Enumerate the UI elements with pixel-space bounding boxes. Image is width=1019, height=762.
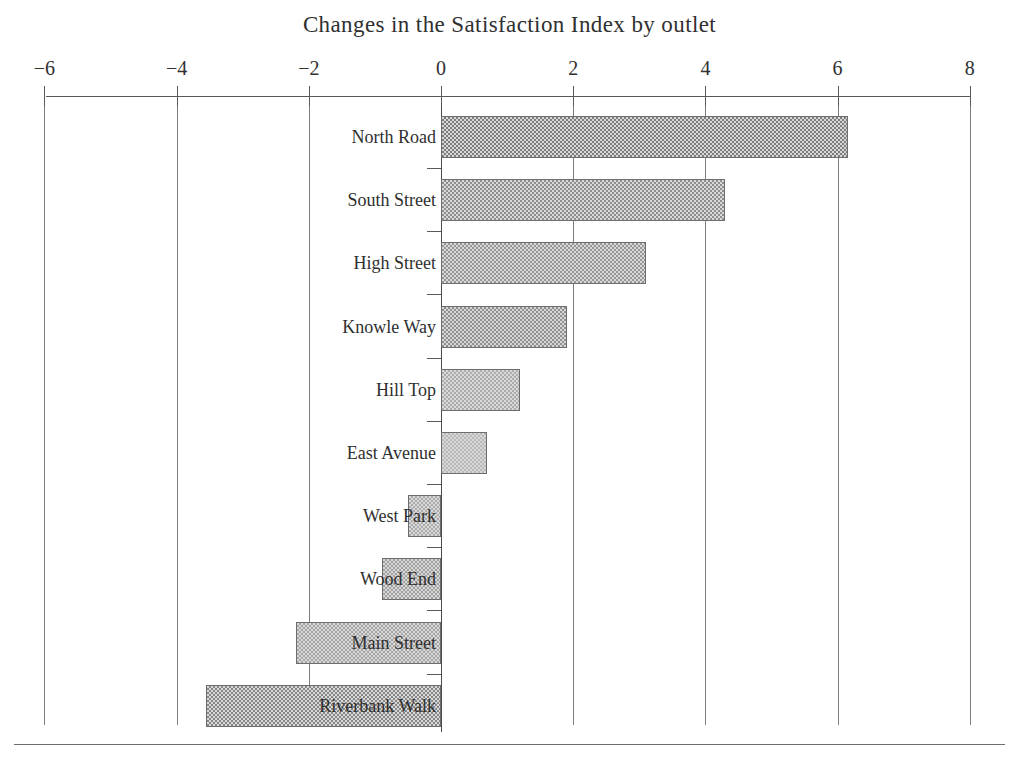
category-tick — [427, 484, 441, 485]
bar-row: East Avenue — [0, 432, 1019, 495]
category-label-hill-top: Hill Top — [120, 378, 436, 402]
plot-area: −6−4−202468North RoadSouth StreetHigh St… — [0, 0, 1019, 762]
category-tick — [427, 610, 441, 611]
category-tick — [427, 421, 441, 422]
x-tick-label-4: 4 — [700, 57, 710, 80]
category-label-north-road: North Road — [120, 125, 436, 149]
bar-row: South Street — [0, 179, 1019, 242]
x-tick--4 — [177, 86, 178, 106]
x-tick-label--6: −6 — [34, 57, 55, 80]
bar-row: West Park — [0, 495, 1019, 558]
x-tick-6 — [838, 86, 839, 106]
bar-row: Hill Top — [0, 369, 1019, 432]
bar-hill-top[interactable] — [441, 369, 520, 411]
bottom-divider — [14, 744, 1005, 745]
bar-north-road[interactable] — [441, 116, 848, 158]
category-label-south-street: South Street — [120, 188, 436, 212]
category-tick — [427, 358, 441, 359]
bar-row: Riverbank Walk — [0, 685, 1019, 748]
x-tick-label--2: −2 — [298, 57, 319, 80]
x-tick-label-6: 6 — [833, 57, 843, 80]
x-tick-label-2: 2 — [568, 57, 578, 80]
category-tick — [427, 294, 441, 295]
category-label-wood-end: Wood End — [120, 567, 436, 591]
x-axis-line — [46, 96, 971, 97]
x-tick--2 — [309, 86, 310, 106]
category-label-riverbank-walk: Riverbank Walk — [120, 694, 436, 718]
bar-row: North Road — [0, 116, 1019, 179]
x-tick-8 — [970, 86, 971, 106]
bar-high-street[interactable] — [441, 242, 646, 284]
bar-row: Wood End — [0, 558, 1019, 621]
x-tick-label--4: −4 — [166, 57, 187, 80]
x-tick-4 — [705, 86, 706, 106]
category-label-high-street: High Street — [120, 251, 436, 275]
category-label-knowle-way: Knowle Way — [120, 315, 436, 339]
chart-container: Changes in the Satisfaction Index by out… — [0, 0, 1019, 762]
bar-south-street[interactable] — [441, 179, 725, 221]
bar-east-avenue[interactable] — [441, 432, 487, 474]
category-tick — [427, 547, 441, 548]
x-tick-label-8: 8 — [965, 57, 975, 80]
x-tick--6 — [44, 86, 45, 106]
bar-row: Knowle Way — [0, 306, 1019, 369]
x-tick-label-0: 0 — [436, 57, 446, 80]
category-label-east-avenue: East Avenue — [120, 441, 436, 465]
bar-row: High Street — [0, 242, 1019, 305]
category-tick — [427, 168, 441, 169]
category-tick — [427, 231, 441, 232]
bar-knowle-way[interactable] — [441, 306, 567, 348]
category-tick — [427, 674, 441, 675]
bar-row: Main Street — [0, 622, 1019, 685]
x-tick-2 — [573, 86, 574, 106]
category-label-west-park: West Park — [120, 504, 436, 528]
category-label-main-street: Main Street — [120, 631, 436, 655]
x-tick-0 — [441, 86, 442, 106]
